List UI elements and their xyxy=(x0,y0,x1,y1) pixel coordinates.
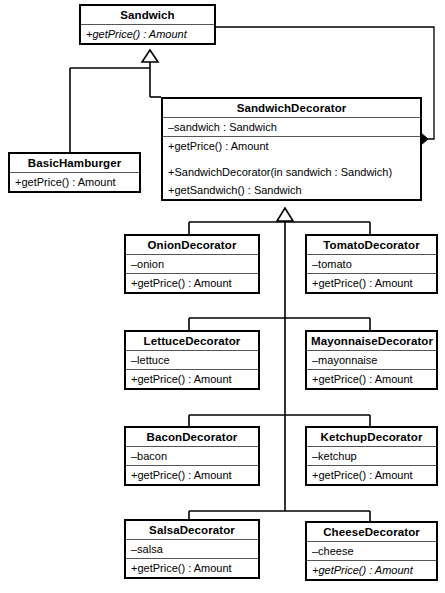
method-row: +getPrice() : Amount xyxy=(163,137,420,155)
class-methods-compartment: +getPrice() : Amount xyxy=(81,24,214,43)
method-row: +getPrice() : Amount xyxy=(81,25,214,43)
class-name-compartment: LettuceDecorator xyxy=(126,332,258,350)
class-methods-compartment: +getPrice() : Amount xyxy=(10,172,139,191)
class-box-sandwich[interactable]: Sandwich +getPrice() : Amount xyxy=(79,4,216,45)
class-box-lettuce-decorator[interactable]: LettuceDecorator –lettuce +getPrice() : … xyxy=(124,330,260,390)
class-name-label: CheeseDecorator xyxy=(307,523,436,541)
method-row: +getSandwich() : Sandwich xyxy=(163,181,420,199)
class-name-compartment: Sandwich xyxy=(81,6,214,24)
class-name-label: MayonnaiseDecorator xyxy=(307,332,436,350)
class-attributes-compartment: –onion xyxy=(126,254,258,273)
method-row: +getPrice() : Amount xyxy=(307,274,436,292)
class-box-bacon-decorator[interactable]: BaconDecorator –bacon +getPrice() : Amou… xyxy=(124,426,260,486)
class-name-compartment: CheeseDecorator xyxy=(307,523,436,541)
class-box-salsa-decorator[interactable]: SalsaDecorator –salsa +getPrice() : Amou… xyxy=(124,519,260,579)
attribute-row: –bacon xyxy=(126,447,258,465)
class-name-compartment: KetchupDecorator xyxy=(307,428,436,446)
class-attributes-compartment: –salsa xyxy=(126,539,258,558)
class-methods-compartment: +getPrice() : Amount xyxy=(126,273,258,292)
relationship-edges xyxy=(0,0,445,593)
class-box-mayonnaise-decorator[interactable]: MayonnaiseDecorator –mayonnaise +getPric… xyxy=(305,330,438,390)
class-attributes-compartment: –sandwich : Sandwich xyxy=(163,117,420,136)
class-name-compartment: SandwichDecorator xyxy=(163,99,420,117)
class-name-label: BaconDecorator xyxy=(126,428,258,446)
class-box-ketchup-decorator[interactable]: KetchupDecorator –ketchup +getPrice() : … xyxy=(305,426,438,486)
class-name-compartment: BasicHamburger xyxy=(10,154,139,172)
class-attributes-compartment: –tomato xyxy=(307,254,436,273)
class-attributes-compartment: –bacon xyxy=(126,446,258,465)
class-methods-compartment: +getPrice() : Amount xyxy=(126,465,258,484)
class-name-compartment: TomatoDecorator xyxy=(307,236,436,254)
class-attributes-compartment: –cheese xyxy=(307,541,436,560)
class-attributes-compartment: –ketchup xyxy=(307,446,436,465)
attribute-row: –ketchup xyxy=(307,447,436,465)
uml-class-diagram: Sandwich +getPrice() : Amount BasicHambu… xyxy=(0,0,445,593)
method-row: +getPrice() : Amount xyxy=(126,559,258,577)
class-methods-compartment: +getPrice() : Amount xyxy=(126,369,258,388)
class-box-basic-hamburger[interactable]: BasicHamburger +getPrice() : Amount xyxy=(8,152,141,193)
attribute-row: –lettuce xyxy=(126,351,258,369)
attribute-row: –mayonnaise xyxy=(307,351,436,369)
class-box-sandwich-decorator[interactable]: SandwichDecorator –sandwich : Sandwich +… xyxy=(161,97,422,201)
method-spacer xyxy=(163,155,420,163)
class-name-label: SandwichDecorator xyxy=(163,99,420,117)
class-name-label: TomatoDecorator xyxy=(307,236,436,254)
method-row: +getPrice() : Amount xyxy=(10,173,139,191)
attribute-row: –onion xyxy=(126,255,258,273)
class-name-label: SalsaDecorator xyxy=(126,521,258,539)
class-methods-compartment: +getPrice() : Amount +SandwichDecorator(… xyxy=(163,136,420,199)
class-name-compartment: SalsaDecorator xyxy=(126,521,258,539)
attribute-row: –sandwich : Sandwich xyxy=(163,118,420,136)
class-methods-compartment: +getPrice() : Amount xyxy=(307,465,436,484)
attribute-row: –salsa xyxy=(126,540,258,558)
generalization-arrow-to-sandwich-decorator xyxy=(277,208,293,221)
attribute-row: –tomato xyxy=(307,255,436,273)
attribute-row: –cheese xyxy=(307,542,436,560)
method-row: +getPrice() : Amount xyxy=(126,466,258,484)
class-methods-compartment: +getPrice() : Amount xyxy=(126,558,258,577)
class-attributes-compartment: –lettuce xyxy=(126,350,258,369)
method-row: +getPrice() : Amount xyxy=(307,561,436,579)
class-name-compartment: BaconDecorator xyxy=(126,428,258,446)
class-name-compartment: OnionDecorator xyxy=(126,236,258,254)
class-methods-compartment: +getPrice() : Amount xyxy=(307,273,436,292)
method-row: +getPrice() : Amount xyxy=(126,370,258,388)
class-name-compartment: MayonnaiseDecorator xyxy=(307,332,436,350)
class-name-label: LettuceDecorator xyxy=(126,332,258,350)
class-name-label: Sandwich xyxy=(81,6,214,24)
method-row: +getPrice() : Amount xyxy=(307,370,436,388)
class-box-tomato-decorator[interactable]: TomatoDecorator –tomato +getPrice() : Am… xyxy=(305,234,438,294)
class-methods-compartment: +getPrice() : Amount xyxy=(307,560,436,579)
class-methods-compartment: +getPrice() : Amount xyxy=(307,369,436,388)
method-row: +getPrice() : Amount xyxy=(307,466,436,484)
class-name-label: BasicHamburger xyxy=(10,154,139,172)
method-row: +SandwichDecorator(in sandwich : Sandwic… xyxy=(163,163,420,181)
generalization-arrow-to-sandwich xyxy=(142,50,158,62)
class-name-label: KetchupDecorator xyxy=(307,428,436,446)
class-attributes-compartment: –mayonnaise xyxy=(307,350,436,369)
method-row: +getPrice() : Amount xyxy=(126,274,258,292)
class-box-onion-decorator[interactable]: OnionDecorator –onion +getPrice() : Amou… xyxy=(124,234,260,294)
class-box-cheese-decorator[interactable]: CheeseDecorator –cheese +getPrice() : Am… xyxy=(305,521,438,581)
class-name-label: OnionDecorator xyxy=(126,236,258,254)
